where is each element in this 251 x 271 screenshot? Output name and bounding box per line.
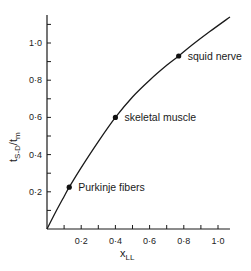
y-tick-label: 0·2 — [29, 187, 42, 197]
y-axis-label-sub1: S-D — [13, 145, 22, 159]
chart: 0·20·40·60·81·0 0·20·40·60·81·0 Purkinje… — [0, 0, 251, 271]
annotation-skeletal-muscle: skeletal muscle — [124, 111, 196, 123]
y-tick-label: 0·4 — [29, 150, 42, 160]
data-point-purkinje-fibers — [67, 185, 72, 190]
annotation-squid-nerve: squid nerve — [188, 50, 242, 62]
annotation-purkinje-fibers: Purkinje fibers — [78, 181, 145, 193]
data-point-skeletal-muscle — [113, 115, 118, 120]
x-tick-label: 0·8 — [177, 236, 190, 246]
x-tick-label: 0·2 — [75, 236, 88, 246]
x-axis-label: xLL — [120, 247, 135, 262]
x-tick-label: 0·4 — [109, 236, 122, 246]
y-tick-labels: 0·20·40·60·81·0 — [29, 38, 42, 197]
x-tick-label: 0·6 — [143, 236, 156, 246]
y-axis-label: tS-D/tm — [7, 132, 22, 162]
y-axis-label-sub2: m — [13, 132, 22, 139]
x-axis-label-sub: LL — [126, 253, 135, 262]
y-tick-label: 0·6 — [29, 112, 42, 122]
x-tick-labels: 0·20·40·60·81·0 — [75, 236, 225, 246]
x-tick-label: 1·0 — [211, 236, 224, 246]
y-tick-label: 0·8 — [29, 75, 42, 85]
data-point-squid-nerve — [176, 53, 181, 58]
y-tick-label: 1·0 — [29, 38, 42, 48]
